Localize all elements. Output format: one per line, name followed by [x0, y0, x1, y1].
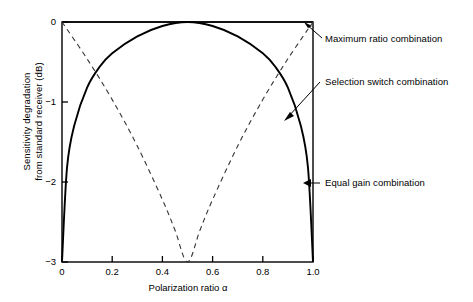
series-selection-switch-combination: [62, 22, 313, 262]
arrowhead-selection-switch: [284, 112, 294, 121]
chart-plot-area: [0, 0, 473, 302]
y-tick-label: −2: [34, 176, 56, 187]
y-tick-label: 0: [34, 16, 56, 27]
plot-frame: [62, 22, 313, 262]
x-tick-label: 0.6: [198, 266, 228, 277]
y-axis-title-line-1: Sensitivity degradation: [21, 27, 33, 217]
y-tick-label: −1: [34, 96, 56, 107]
x-axis-title: Polarization ratio α: [118, 282, 258, 293]
x-axis-ticks: [62, 256, 313, 262]
y-tick-label: −3: [34, 256, 56, 267]
annotation-selection-switch-combination: Selection switch combination: [325, 76, 448, 87]
annotation-leader-lines: [284, 22, 322, 187]
arrowhead-equal-gain: [303, 179, 311, 187]
annotation-maximum-ratio-combination: Maximum ratio combination: [325, 33, 442, 44]
chart-figure: Sensitivity degradation from standard re…: [0, 0, 473, 302]
x-tick-label: 0.8: [248, 266, 278, 277]
annotation-equal-gain-combination: Equal gain combination: [325, 177, 425, 188]
x-tick-label: 0: [47, 266, 77, 277]
x-tick-label: 0.4: [147, 266, 177, 277]
y-axis-title-line-2: from standard receiver (dB): [32, 27, 44, 217]
x-tick-label: 1.0: [298, 266, 328, 277]
series-equal-gain-combination: [62, 22, 313, 262]
x-tick-label: 0.2: [97, 266, 127, 277]
y-axis-title: Sensitivity degradation from standard re…: [21, 27, 44, 217]
